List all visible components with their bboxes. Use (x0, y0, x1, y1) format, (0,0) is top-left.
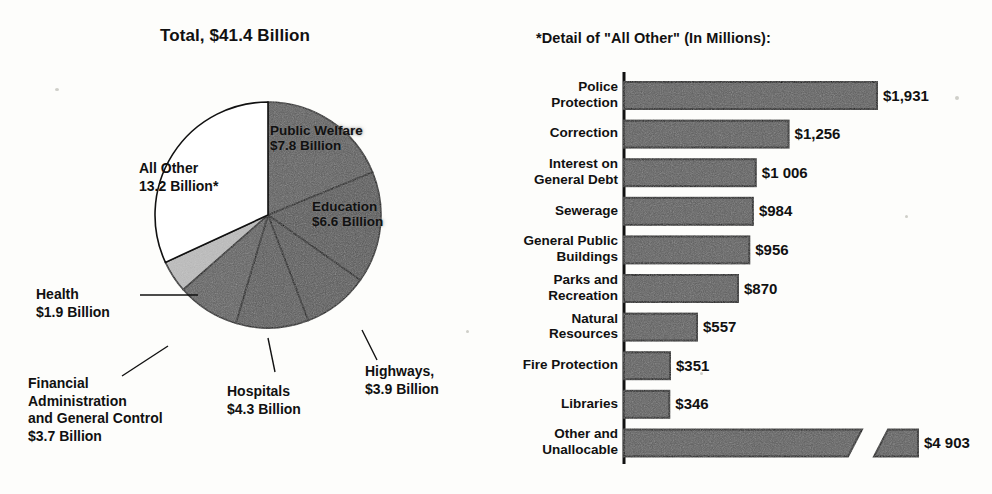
bar-category-other-and-unallocable-line2: Unallocable (488, 442, 618, 458)
pie-label-education: Education $6.6 Billion (312, 199, 383, 229)
pie-label-hospitals-line2: $4.3 Billion (227, 401, 301, 419)
bar-correction (624, 121, 789, 148)
bar-other-and-unallocable-tail (874, 429, 918, 456)
bar-category-sewerage: Sewerage (488, 203, 618, 219)
bar-category-interest-on-general-debt-line2: General Debt (488, 172, 618, 188)
pie-label-health-line1: Health (36, 286, 110, 304)
pie-label-highways-line1: Highways, (365, 363, 439, 381)
pie-label-public-welfare-line1: Public Welfare (270, 123, 363, 138)
bar-chart-panel: *Detail of "All Other" (In Millions): Po… (498, 0, 992, 494)
bar-category-sewerage-line1: Sewerage (488, 203, 618, 219)
bar-category-natural-resources-line2: Resources (488, 326, 618, 342)
bar-interest-on-general-debt (624, 159, 756, 186)
bar-libraries (624, 391, 669, 418)
bar-category-police-protection: PoliceProtection (488, 79, 618, 110)
bar-parks-and-recreation (624, 275, 738, 302)
bar-other-and-unallocable-main (624, 429, 862, 456)
pie-label-all-other-line1: All Other (139, 160, 218, 178)
pie-label-highways: Highways, $3.9 Billion (365, 363, 439, 398)
bar-value-interest-on-general-debt: $1 006 (762, 164, 808, 181)
pie-label-financial-line1: Financial (28, 375, 163, 393)
scan-speck (700, 372, 703, 375)
bar-category-fire-protection: Fire Protection (488, 357, 618, 373)
bar-value-sewerage: $984 (759, 202, 792, 219)
bar-sewerage (624, 198, 753, 225)
pie-label-education-line2: $6.6 Billion (312, 214, 383, 229)
pie-label-financial-line2: Administration (28, 393, 163, 411)
pie-label-financial-line3: and General Control (28, 410, 163, 428)
bar-category-parks-and-recreation: Parks andRecreation (488, 272, 618, 303)
bar-category-parks-and-recreation-line2: Recreation (488, 288, 618, 304)
scan-speck (55, 88, 59, 91)
bar-value-parks-and-recreation: $870 (744, 280, 777, 297)
scan-speck (955, 96, 959, 100)
pie-label-financial-line4: $3.7 Billion (28, 428, 163, 446)
bar-police-protection (624, 82, 877, 109)
scan-speck (466, 330, 469, 333)
bar-category-police-protection-line2: Protection (488, 95, 618, 111)
bar-value-libraries: $346 (675, 395, 708, 412)
bar-category-natural-resources-line1: Natural (488, 311, 618, 327)
pie-label-hospitals-line1: Hospitals (227, 383, 301, 401)
bar-category-general-public-buildings-line1: General Public (488, 233, 618, 249)
bar-category-interest-on-general-debt-line1: Interest on (488, 156, 618, 172)
bar-chart-bars (624, 82, 918, 456)
bar-category-libraries-line1: Libraries (488, 396, 618, 412)
bar-value-police-protection: $1,931 (883, 87, 929, 104)
pie-label-public-welfare: Public Welfare $7.8 Billion (270, 123, 363, 153)
bar-value-general-public-buildings: $956 (755, 241, 788, 258)
bar-general-public-buildings (624, 236, 749, 263)
bar-value-fire-protection: $351 (676, 357, 709, 374)
bar-value-natural-resources: $557 (703, 318, 736, 335)
pie-label-financial-administration: Financial Administration and General Con… (28, 375, 163, 445)
bar-category-natural-resources: NaturalResources (488, 311, 618, 342)
pie-chart-panel: Total, $41.4 Billion (0, 0, 500, 494)
pie-label-education-line1: Education (312, 199, 383, 214)
bar-category-correction-line1: Correction (488, 125, 618, 141)
bar-category-interest-on-general-debt: Interest onGeneral Debt (488, 156, 618, 187)
bar-natural-resources (624, 314, 697, 341)
bar-category-general-public-buildings: General PublicBuildings (488, 233, 618, 264)
pie-label-public-welfare-line2: $7.8 Billion (270, 138, 363, 153)
pie-label-highways-line2: $3.9 Billion (365, 381, 439, 399)
bar-category-fire-protection-line1: Fire Protection (488, 357, 618, 373)
bar-category-other-and-unallocable-line1: Other and (488, 426, 618, 442)
bar-value-correction: $1,256 (795, 125, 841, 142)
bar-category-libraries: Libraries (488, 396, 618, 412)
pie-label-hospitals: Hospitals $4.3 Billion (227, 383, 301, 418)
bar-category-police-protection-line1: Police (488, 79, 618, 95)
bar-category-general-public-buildings-line2: Buildings (488, 249, 618, 265)
pie-label-health: Health $1.9 Billion (36, 286, 110, 321)
bar-fire-protection (624, 352, 670, 379)
bar-category-parks-and-recreation-line1: Parks and (488, 272, 618, 288)
bar-category-other-and-unallocable: Other andUnallocable (488, 426, 618, 457)
pie-label-all-other-line2: 13.2 Billion* (139, 178, 218, 196)
bar-category-correction: Correction (488, 125, 618, 141)
pie-label-health-line2: $1.9 Billion (36, 304, 110, 322)
figure-root: Total, $41.4 Billion (0, 0, 992, 494)
pie-label-all-other: All Other 13.2 Billion* (139, 160, 218, 195)
scan-speck (905, 215, 908, 218)
bar-value-other-and-unallocable: $4 903 (924, 434, 970, 451)
